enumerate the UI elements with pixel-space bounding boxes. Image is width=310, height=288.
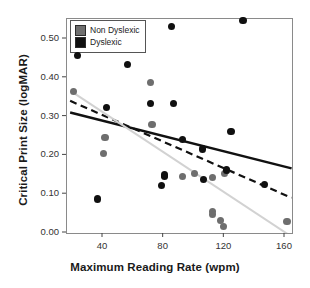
data-point-dyslexic-13 [223, 166, 230, 173]
data-point-non-dyslexic-9 [209, 211, 216, 218]
x-tick-label-2: 120 [206, 240, 240, 251]
data-point-dyslexic-7 [161, 171, 168, 178]
data-point-non-dyslexic-4 [148, 121, 155, 128]
data-point-dyslexic-14 [227, 128, 234, 135]
legend-swatch-dyslexic [75, 37, 86, 48]
data-point-dyslexic-1 [94, 195, 101, 202]
y-axis-title: Critical Print Size (logMAR) [17, 25, 29, 235]
legend: Non Dyslexic Dyslexic [70, 20, 146, 53]
legend-item-non-dyslexic: Non Dyslexic [75, 25, 140, 36]
y-tick-label-2: 0.20 [25, 148, 59, 159]
x-tick-label-1: 80 [146, 240, 180, 251]
data-point-dyslexic-15 [239, 17, 246, 24]
x-tick-label-0: 40 [85, 240, 119, 251]
y-tick-label-3: 0.30 [25, 110, 59, 121]
y-tick-label-1: 0.10 [25, 187, 59, 198]
legend-label-non-dyslexic: Non Dyslexic [90, 25, 140, 36]
y-tick-label-0: 0.00 [25, 226, 59, 237]
scatter-plot-figure: Critical Print Size (logMAR) Maximum Rea… [0, 0, 310, 288]
data-point-non-dyslexic-1 [101, 134, 108, 141]
y-tick-label-5: 0.50 [25, 32, 59, 43]
data-point-dyslexic-9 [170, 100, 177, 107]
legend-item-dyslexic: Dyslexic [75, 37, 140, 48]
y-tick-label-4: 0.40 [25, 71, 59, 82]
data-point-dyslexic-11 [199, 145, 206, 152]
x-tick-label-3: 160 [267, 240, 301, 251]
x-axis-title: Maximum Reading Rate (wpm) [0, 261, 310, 273]
data-point-non-dyslexic-11 [220, 223, 227, 230]
data-point-dyslexic-5 [158, 182, 165, 189]
data-point-non-dyslexic-0 [70, 88, 77, 95]
data-point-non-dyslexic-14 [283, 218, 290, 225]
data-point-non-dyslexic-6 [191, 170, 198, 177]
legend-label-dyslexic: Dyslexic [90, 37, 122, 48]
legend-swatch-non-dyslexic [75, 25, 86, 36]
data-point-non-dyslexic-2 [100, 150, 107, 157]
